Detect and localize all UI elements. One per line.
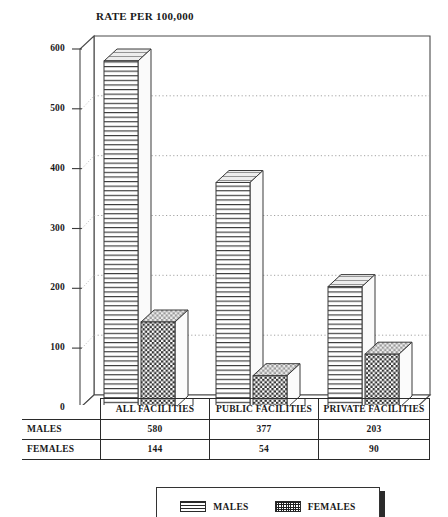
- y-tick-label-200: 200: [31, 282, 65, 292]
- table-cell-males-private: 203: [319, 420, 430, 440]
- table-header-private-facilities: PRIVATE FACILITIES: [319, 399, 430, 420]
- table-row-label-females: FEMALES: [22, 440, 101, 460]
- chart-legend: MALES FEMALES: [156, 487, 380, 517]
- data-table: ALL FACILITIES PUBLIC FACILITIES PRIVATE…: [22, 398, 430, 460]
- y-tick-label-300: 300: [31, 223, 65, 233]
- table-header-public-facilities: PUBLIC FACILITIES: [210, 399, 319, 420]
- table-row: MALES 580 377 203: [22, 420, 430, 440]
- legend-item-females: FEMALES: [275, 501, 356, 512]
- table-corner-cell: [22, 399, 101, 420]
- bar-all-facilities-females: [141, 310, 188, 405]
- table-cell-females-all: 144: [101, 440, 210, 460]
- legend-swatch-females-icon: [275, 501, 301, 512]
- table-row-label-males: MALES: [22, 420, 101, 440]
- legend-label-males: MALES: [213, 502, 248, 512]
- legend-label-females: FEMALES: [308, 502, 356, 512]
- y-tick-label-100: 100: [31, 342, 65, 352]
- plot-area: 600 500 400 300 200 100 0: [0, 20, 448, 405]
- table-cell-males-all: 580: [101, 420, 210, 440]
- top-cutoff-artifact: [250, 0, 440, 5]
- bar-chart-svg: [0, 20, 448, 405]
- y-tick-label-500: 500: [31, 103, 65, 113]
- bar-private-facilities-females: [365, 342, 412, 405]
- y-tick-label-600: 600: [31, 43, 65, 53]
- y-tick-label-400: 400: [31, 163, 65, 173]
- bar-public-facilities-males: [216, 171, 263, 406]
- table-header-all-facilities: ALL FACILITIES: [101, 399, 210, 420]
- table-row: FEMALES 144 54 90: [22, 440, 430, 460]
- legend-swatch-males-icon: [180, 501, 206, 512]
- table-cell-males-public: 377: [210, 420, 319, 440]
- legend-shadow: [380, 491, 385, 517]
- table-cell-females-public: 54: [210, 440, 319, 460]
- table-cell-females-private: 90: [319, 440, 430, 460]
- table-header-row: ALL FACILITIES PUBLIC FACILITIES PRIVATE…: [22, 399, 430, 420]
- legend-item-males: MALES: [180, 501, 248, 512]
